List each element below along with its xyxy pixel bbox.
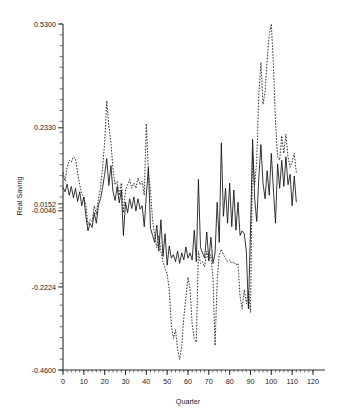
y-axis-ticks — [58, 24, 63, 370]
x-tick-label: 40 — [142, 377, 150, 386]
y-tick-label: 0.5300 — [34, 20, 56, 29]
x-tick-label: 100 — [265, 377, 277, 386]
chart-container: 0.53000.23300.0152-0.0046-0.2224-0.4600 … — [0, 0, 338, 413]
y-tick-label: 0.2330 — [34, 123, 56, 132]
x-tick-label: 60 — [184, 377, 192, 386]
data-series-group — [63, 24, 296, 360]
x-tick-label: 80 — [226, 377, 234, 386]
series-line-solid — [63, 139, 296, 309]
axis-lines — [63, 24, 325, 370]
x-axis-ticks — [63, 370, 313, 375]
x-tick-label: 90 — [247, 377, 255, 386]
x-tick-label: 10 — [80, 377, 88, 386]
y-tick-labels: 0.53000.23300.0152-0.0046-0.2224-0.4600 — [32, 20, 56, 375]
series-line-dotted — [63, 24, 296, 360]
x-tick-label: 120 — [307, 377, 319, 386]
y-tick-label: -0.0046 — [32, 206, 56, 215]
x-tick-label: 20 — [101, 377, 109, 386]
x-tick-labels: 0102030405060708090100110120 — [61, 377, 319, 386]
x-axis-title: Quarter — [176, 397, 201, 406]
x-tick-label: 50 — [163, 377, 171, 386]
line-chart: 0.53000.23300.0152-0.0046-0.2224-0.4600 … — [0, 0, 338, 413]
y-tick-label: -0.2224 — [32, 283, 56, 292]
x-tick-label: 110 — [286, 377, 297, 386]
x-tick-label: 70 — [205, 377, 213, 386]
y-axis-title: Real Saving — [15, 177, 24, 216]
y-tick-label: -0.4600 — [32, 366, 56, 375]
x-tick-label: 0 — [61, 377, 65, 386]
x-tick-label: 30 — [122, 377, 130, 386]
